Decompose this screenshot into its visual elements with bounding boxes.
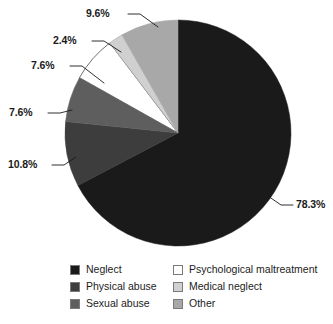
legend-item-neglect[interactable]: Neglect [70, 262, 157, 277]
legend-label-other: Other [189, 298, 215, 309]
legend-column-left: Neglect Physical abuse Sexual abuse [70, 262, 157, 313]
legend-label-neglect: Neglect [86, 264, 122, 275]
legend-item-medical-neglect[interactable]: Medical neglect [173, 279, 317, 294]
pie-slices [65, 20, 291, 246]
legend-label-psychological-maltreatment: Psychological maltreatment [189, 264, 317, 275]
legend-column-right: Psychological maltreatment Medical negle… [173, 262, 317, 313]
leader-line-neglect [268, 196, 293, 205]
legend-label-physical-abuse: Physical abuse [86, 281, 157, 292]
chart-legend: Neglect Physical abuse Sexual abuse Psyc… [70, 262, 333, 312]
legend-swatch-neglect [70, 265, 80, 275]
legend-item-physical-abuse[interactable]: Physical abuse [70, 279, 157, 294]
pie-label-sexual-abuse: 7.6% [9, 106, 33, 118]
legend-label-medical-neglect: Medical neglect [189, 281, 262, 292]
legend-label-sexual-abuse: Sexual abuse [86, 298, 150, 309]
legend-swatch-other [173, 299, 183, 309]
legend-swatch-psychological-maltreatment [173, 265, 183, 275]
legend-item-psychological-maltreatment[interactable]: Psychological maltreatment [173, 262, 317, 277]
pie-label-medical-neglect: 2.4% [53, 34, 77, 46]
pie-chart-figure: 9.6% 2.4% 7.6% 7.6% 10.8% 78.3% Neglect … [0, 0, 333, 324]
pie-label-other: 9.6% [86, 7, 110, 19]
pie-label-psychological-maltreatment: 7.6% [31, 59, 55, 71]
legend-swatch-physical-abuse [70, 282, 80, 292]
pie-label-physical-abuse: 10.8% [8, 158, 37, 170]
legend-item-other[interactable]: Other [173, 296, 317, 311]
pie-label-neglect: 78.3% [296, 198, 325, 210]
legend-swatch-sexual-abuse [70, 299, 80, 309]
legend-swatch-medical-neglect [173, 282, 183, 292]
legend-item-sexual-abuse[interactable]: Sexual abuse [70, 296, 157, 311]
